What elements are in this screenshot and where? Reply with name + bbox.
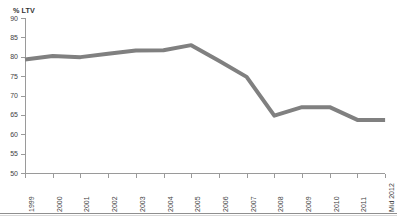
footer-rule [0, 213, 397, 214]
series-line-layer [0, 0, 397, 219]
footer-rule-secondary [0, 215, 397, 216]
chart-container: % LTV 908580757065605550 199920002001200… [0, 0, 397, 219]
series-ltv-line [25, 45, 385, 120]
plot-area: 908580757065605550 199920002001200220032… [0, 0, 397, 219]
